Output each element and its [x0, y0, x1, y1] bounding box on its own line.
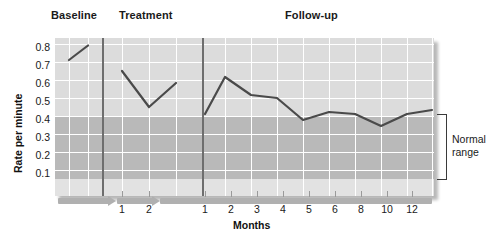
axis-tick-followup-12 [412, 191, 413, 197]
x-tick-followup-4: 4 [276, 203, 290, 215]
normal-range-label-line1: Normal [452, 133, 486, 146]
axis-tick-followup-1 [205, 191, 206, 197]
y-tick-0_7: 0.7 [26, 59, 50, 71]
axis-tick-followup-10 [387, 191, 388, 197]
x-tick-followup-10: 10 [380, 203, 394, 215]
x-tick-treatment-1: 1 [115, 203, 129, 215]
axis-bar-baseline-body [58, 198, 109, 204]
y-tick-0_1: 0.1 [26, 167, 50, 179]
chart-figure: Baseline Treatment Follow-up Rate per mi… [0, 0, 496, 239]
y-tick-0_4: 0.4 [26, 113, 50, 125]
x-tick-followup-12: 12 [405, 203, 419, 215]
axis-bar-baseline [58, 196, 109, 205]
x-tick-followup-1: 1 [198, 203, 212, 215]
normal-range-label-line2: range [452, 146, 486, 159]
series-line-baseline [69, 46, 88, 61]
phase-heading-baseline: Baseline [51, 9, 97, 21]
axis-tick-followup-3 [257, 191, 258, 197]
x-tick-followup-3: 3 [250, 203, 264, 215]
axis-tick-followup-6 [335, 191, 336, 197]
y-tick-0_3: 0.3 [26, 131, 50, 143]
y-tick-0_6: 0.6 [26, 77, 50, 89]
normal-range-label: Normal range [452, 133, 486, 159]
axis-tick-treatment-2 [149, 191, 150, 197]
y-axis-title: Rate per minute [12, 94, 24, 173]
axis-tick-followup-5 [309, 191, 310, 197]
normal-range-bracket [437, 114, 447, 180]
y-tick-0_5: 0.5 [26, 95, 50, 107]
x-tick-treatment-2: 2 [142, 203, 156, 215]
y-tick-0_2: 0.2 [26, 149, 50, 161]
x-tick-followup-2: 2 [224, 203, 238, 215]
axis-tick-followup-8 [361, 191, 362, 197]
x-tick-followup-8: 8 [354, 203, 368, 215]
series-line-followup [205, 77, 432, 126]
axis-tick-followup-2 [231, 191, 232, 197]
data-series-layer [55, 38, 434, 196]
series-line-treatment [122, 71, 176, 107]
x-axis-title: Months [233, 219, 270, 231]
plot-area [55, 38, 434, 196]
axis-tick-treatment-1 [122, 191, 123, 197]
x-tick-followup-5: 5 [302, 203, 316, 215]
phase-heading-treatment: Treatment [119, 9, 172, 21]
plot-background [55, 38, 434, 196]
x-tick-followup-6: 6 [328, 203, 342, 215]
phase-heading-followup: Follow-up [285, 9, 338, 21]
axis-tick-followup-4 [283, 191, 284, 197]
y-tick-0_8: 0.8 [26, 41, 50, 53]
